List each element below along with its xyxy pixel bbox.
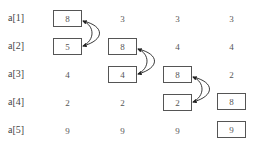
swap-arrows <box>0 0 260 147</box>
swap-arrow-3 <box>193 77 210 102</box>
swap-arrow-2 <box>138 49 155 74</box>
swap-arrow-1 <box>83 21 100 46</box>
